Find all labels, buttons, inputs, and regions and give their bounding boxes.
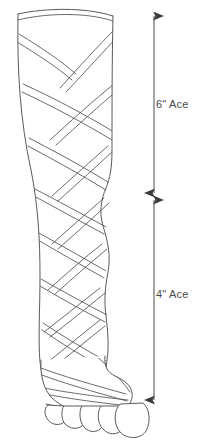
- foot-group: [41, 353, 149, 438]
- toes-group: [45, 403, 149, 438]
- diagram-canvas: 6" Ace 4" Ace: [0, 0, 201, 441]
- toe-1-big: [115, 403, 149, 438]
- ace-wrap-figure: [0, 0, 201, 441]
- dimension-label-upper: 6" Ace: [156, 98, 189, 110]
- dimension-label-lower: 4" Ace: [156, 288, 189, 300]
